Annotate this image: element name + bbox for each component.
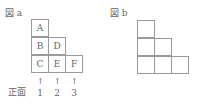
- front-label: 正面: [8, 87, 26, 97]
- cell-f: F: [65, 55, 83, 73]
- grid-cell: [137, 20, 155, 38]
- up-arrow-icon: ↑: [37, 78, 43, 86]
- up-arrow-icon: ↑: [54, 78, 60, 86]
- grid-cell: [171, 56, 189, 74]
- up-arrow-icon: ↑: [71, 78, 77, 86]
- figure-a-title: 図 a: [5, 8, 22, 18]
- cell-d: D: [48, 37, 66, 55]
- grid-cell: [154, 56, 172, 74]
- cell-c: C: [31, 55, 49, 73]
- cell-b: B: [31, 37, 49, 55]
- grid-cell: [137, 38, 155, 56]
- column-number-3: 3: [70, 88, 78, 98]
- cell-a: A: [31, 19, 49, 37]
- column-number-1: 1: [36, 88, 44, 98]
- figure-b-title: 図 b: [110, 8, 128, 18]
- grid-cell: [137, 56, 155, 74]
- cell-e: E: [48, 55, 66, 73]
- column-number-2: 2: [53, 88, 61, 98]
- grid-cell: [154, 38, 172, 56]
